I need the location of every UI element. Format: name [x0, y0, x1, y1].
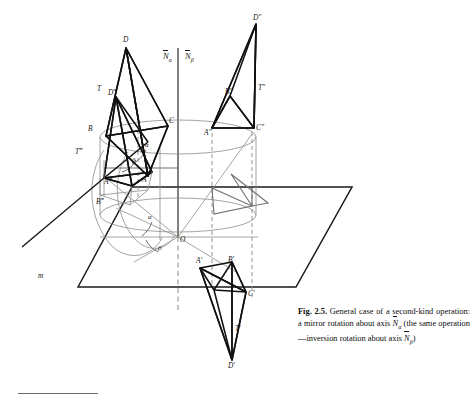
- vertex-label-d: D: [123, 36, 128, 43]
- angle-label-alpha-lower: α: [148, 214, 152, 221]
- angle-label-beta-lower: β: [158, 245, 162, 252]
- vertex-label-a-triple-prime: A‴: [104, 178, 112, 185]
- ray-to-left-corner: [22, 178, 104, 247]
- vertex-label-d-triple-prime: D‴: [108, 89, 116, 96]
- mid-plane-triangle-right: [212, 188, 252, 214]
- footnote-separator-rule: [18, 393, 98, 394]
- tetrahedron-second-image: [212, 24, 256, 128]
- vertex-label-b-prime: B′: [228, 256, 234, 263]
- vertex-label-a-double-prime: A″: [204, 129, 212, 136]
- vertex-label-c-double-prime: C″: [256, 124, 264, 131]
- vertex-label-a: A: [142, 176, 147, 183]
- angle-label-alpha-upper: α: [145, 142, 149, 149]
- figure-caption: Fig. 2.5. General case of a second-kind …: [298, 306, 470, 348]
- origin-label-o: O: [180, 236, 185, 243]
- vertex-label-t-prime: T′: [235, 325, 241, 332]
- figure-2-5: Nα Nβ D T B C A D‴ T‴ B‴ A‴ D″ B″ T″ A″ …: [0, 0, 475, 408]
- angle-label-beta-upper: β: [132, 157, 136, 164]
- angle-ray-o-to-a2: [178, 134, 252, 237]
- plane-label-m: m: [38, 272, 43, 279]
- vertex-label-t-triple-prime: T‴: [75, 148, 82, 155]
- vertex-label-b: B: [88, 125, 93, 132]
- figure-number: Fig. 2.5.: [298, 307, 327, 316]
- vertex-label-b-triple-prime: B‴: [96, 198, 104, 205]
- mid-plane-triangle-left: [231, 174, 268, 206]
- vertex-label-d-double-prime: D″: [253, 14, 261, 21]
- meridian-curve-left: [116, 208, 178, 237]
- vertex-label-a-prime: A′: [196, 257, 202, 264]
- axis-label-n-alpha: Nα: [163, 52, 172, 63]
- vertex-label-t: T: [97, 85, 101, 92]
- vertex-label-c: C: [169, 117, 174, 124]
- vertex-label-t-double-prime: T″: [258, 84, 265, 91]
- tetrahedron-first-image: [200, 262, 246, 360]
- vertex-label-d-prime: D′: [228, 362, 235, 369]
- axis-label-n-beta: Nβ: [185, 52, 194, 63]
- tetrahedron-original: [106, 48, 168, 176]
- caption-part-3: ): [413, 334, 416, 343]
- vertex-label-b-double-prime: B″: [225, 88, 233, 95]
- vertex-label-c-prime: C′: [248, 290, 255, 297]
- caption-axis-beta: Nβ: [404, 334, 413, 343]
